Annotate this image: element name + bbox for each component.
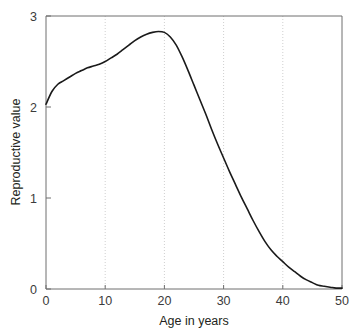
x-tick-label-50: 50 xyxy=(335,294,349,308)
x-tick-label-40: 40 xyxy=(276,294,290,308)
figure-container: 0123 01020304050 Age in years Reproducti… xyxy=(0,0,359,336)
x-axis-title: Age in years xyxy=(159,314,228,328)
x-tick-label-30: 30 xyxy=(217,294,231,308)
y-tick-label-2: 2 xyxy=(30,101,37,115)
x-tick-label-0: 0 xyxy=(43,294,50,308)
y-tick-label-1: 1 xyxy=(30,192,37,206)
y-tick-label-3: 3 xyxy=(30,10,37,24)
y-tick-label-0: 0 xyxy=(30,283,37,297)
y-axis-title: Reproductive value xyxy=(9,98,23,205)
reproductive-value-line-chart: 0123 01020304050 Age in years Reproducti… xyxy=(0,0,359,336)
x-tick-label-20: 20 xyxy=(157,294,171,308)
x-tick-label-10: 10 xyxy=(98,294,112,308)
